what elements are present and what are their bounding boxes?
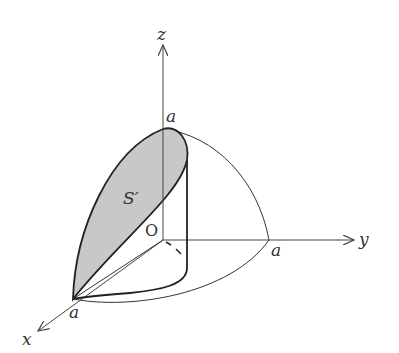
hidden-dash-1 [166,242,171,245]
diagram: z y x O a a a S′ [0,0,399,353]
hidden-dash-2 [176,249,181,254]
surface-s-prime [73,128,187,299]
origin-label: O [145,221,158,240]
y-axis-label: y [358,229,369,249]
a-label-x: a [69,302,79,322]
z-axis-label: z [156,24,167,44]
a-label-z: a [166,106,176,126]
a-label-y: a [271,240,281,260]
surface-label: S′ [123,188,139,208]
x-axis-label: x [22,329,32,349]
